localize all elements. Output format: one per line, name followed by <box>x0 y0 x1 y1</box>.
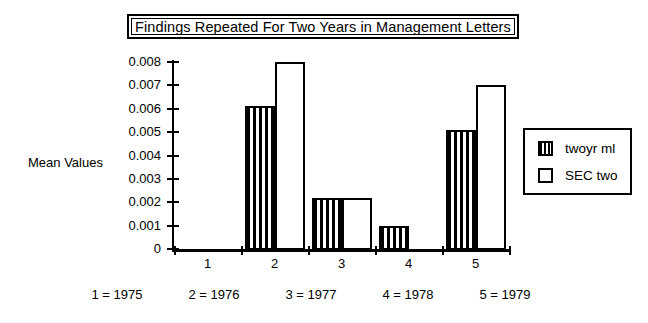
y-axis-tick-label: 0.006 <box>113 102 161 115</box>
y-axis-tick-label: 0.002 <box>113 195 161 208</box>
legend-item-twoyr-ml: twoyr ml <box>538 139 615 157</box>
x-axis-tick <box>241 246 243 255</box>
x-axis-category-label: 1 <box>188 256 228 271</box>
y-axis-tick <box>167 248 179 250</box>
footer-year-key-item: 2 = 1976 <box>169 287 259 302</box>
x-axis-tick <box>308 246 310 255</box>
bar-twoyr-ml-cat-4 <box>379 226 409 250</box>
y-axis-tick-label: 0.003 <box>113 172 161 185</box>
y-axis-title: Mean Values <box>28 155 103 170</box>
y-axis-tick-label-text: 0.004 <box>113 149 161 162</box>
y-axis-tick-label-text: 0.001 <box>113 219 161 232</box>
footer-year-key-item: 4 = 1978 <box>363 287 453 302</box>
legend-item-sec-two: SEC two <box>538 166 618 184</box>
bar-twoyr-ml-cat-2 <box>245 106 275 250</box>
y-axis-tick-label: 0.004 <box>113 149 161 162</box>
footer-year-key-item: 3 = 1977 <box>266 287 356 302</box>
y-axis-tick-label-text: 0.007 <box>113 78 161 91</box>
y-axis-tick <box>167 131 179 133</box>
page-title: Findings Repeated For Two Years in Manag… <box>135 19 511 35</box>
y-axis-tick-label-text: 0.005 <box>113 125 161 138</box>
y-axis-tick <box>167 84 179 86</box>
x-axis-category-label: 3 <box>322 256 362 271</box>
chart-legend: twoyr ml SEC two <box>523 128 632 195</box>
legend-swatch-hatched-icon <box>538 141 553 156</box>
bar-sec-two-cat-2 <box>275 62 305 250</box>
bar-sec-two-cat-3 <box>342 198 372 250</box>
y-axis-tick <box>167 155 179 157</box>
x-axis-category-label: 2 <box>255 256 295 271</box>
y-axis-tick-label: 0.008 <box>113 55 161 68</box>
bar-twoyr-ml-cat-5 <box>446 130 476 250</box>
y-axis-tick <box>167 201 179 203</box>
y-axis-tick-label-text: 0.003 <box>113 172 161 185</box>
x-axis-tick <box>442 246 444 255</box>
y-axis-tick <box>167 61 179 63</box>
y-axis-tick-label-text: 0.002 <box>113 195 161 208</box>
y-axis-tick-label: 0 <box>113 242 161 255</box>
y-axis-tick-label-text: 0.008 <box>113 55 161 68</box>
footer-year-key-item: 1 = 1975 <box>72 287 162 302</box>
y-axis-tick-label: 0.007 <box>113 78 161 91</box>
y-axis-tick-label: 0.001 <box>113 219 161 232</box>
legend-item-label: twoyr ml <box>565 141 615 156</box>
x-axis-category-label: 4 <box>389 256 429 271</box>
y-axis-tick <box>167 178 179 180</box>
bar-twoyr-ml-cat-3 <box>312 198 342 250</box>
x-axis-tick <box>375 246 377 255</box>
legend-item-label: SEC two <box>565 168 618 183</box>
y-axis-tick-label: 0.005 <box>113 125 161 138</box>
y-axis-tick-label-text: 0.006 <box>113 102 161 115</box>
y-axis-tick-label-text: 0 <box>113 242 161 255</box>
x-axis-tick <box>174 246 176 255</box>
legend-swatch-white-icon <box>538 168 553 183</box>
bar-sec-two-cat-5 <box>476 85 506 250</box>
y-axis-tick <box>167 108 179 110</box>
y-axis-tick <box>167 225 179 227</box>
footer-year-key-item: 5 = 1979 <box>460 287 550 302</box>
x-axis-category-label: 5 <box>456 256 496 271</box>
x-axis-tick <box>509 246 511 255</box>
